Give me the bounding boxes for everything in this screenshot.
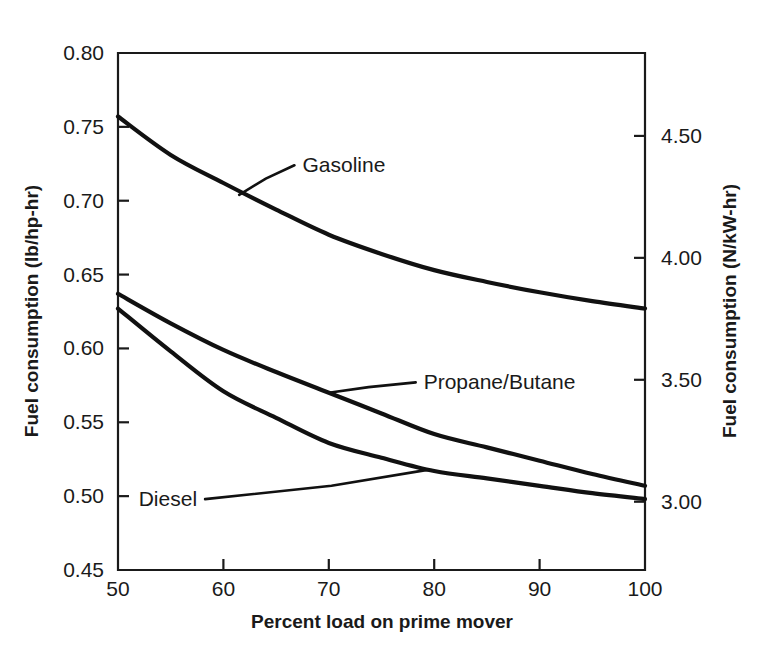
left-axis-tick-labels: 0.450.500.550.600.650.700.750.80 [63, 41, 104, 581]
left-tick-label: 0.50 [63, 484, 104, 507]
left-tick-label: 0.60 [63, 336, 104, 359]
left-tick-label: 0.65 [63, 263, 104, 286]
series-curve-gasoline [118, 117, 645, 309]
series-label-gasoline: Gasoline [302, 153, 385, 176]
chart-figure: 0.450.500.550.600.650.700.750.80 3.003.5… [0, 0, 766, 668]
x-tick-label: 100 [627, 577, 662, 600]
left-tick-label: 0.45 [63, 558, 104, 581]
series-annotations: GasolinePropane/ButaneDiesel [139, 153, 576, 510]
leader-line-diesel [205, 470, 429, 500]
x-tick-label: 50 [106, 577, 129, 600]
right-tick-label: 3.50 [661, 368, 702, 391]
x-axis-tick-labels: 5060708090100 [106, 577, 662, 600]
x-tick-label: 70 [317, 577, 340, 600]
right-tick-label: 3.00 [661, 490, 702, 513]
x-axis-title: Percent load on prime mover [251, 611, 513, 632]
x-tick-label: 60 [212, 577, 235, 600]
y-axis-title-right: Fuel consumption (N/kW-hr) [719, 184, 740, 438]
x-tick-label: 80 [423, 577, 446, 600]
right-tick-label: 4.50 [661, 124, 702, 147]
right-axis-tick-labels: 3.003.504.004.50 [661, 124, 702, 513]
fuel-consumption-line-chart: 0.450.500.550.600.650.700.750.80 3.003.5… [0, 0, 766, 668]
right-axis-ticks [634, 136, 645, 502]
leader-line-gasoline [239, 165, 294, 195]
left-tick-label: 0.80 [63, 41, 104, 64]
left-tick-label: 0.70 [63, 189, 104, 212]
x-tick-label: 90 [528, 577, 551, 600]
left-tick-label: 0.75 [63, 115, 104, 138]
leader-line-propane-butane [329, 382, 416, 392]
series-label-propane-butane: Propane/Butane [424, 370, 576, 393]
y-axis-title-left: Fuel consumption (lb/hp-hr) [21, 185, 42, 437]
left-tick-label: 0.55 [63, 410, 104, 433]
right-tick-label: 4.00 [661, 246, 702, 269]
series-label-diesel: Diesel [139, 487, 197, 510]
x-axis-ticks [223, 559, 539, 570]
